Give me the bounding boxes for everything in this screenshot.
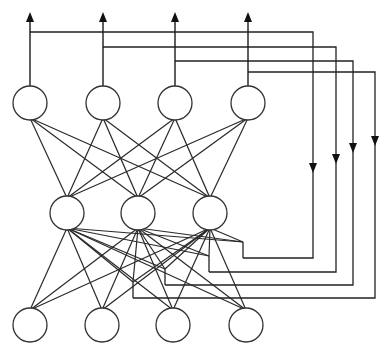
- edge-context-hidden: [209, 228, 210, 256]
- edge-hidden-output: [67, 118, 103, 198]
- output-node: [158, 86, 192, 120]
- output-node: [86, 86, 120, 120]
- input-node: [85, 308, 119, 342]
- arrow-down-icon: [332, 154, 340, 164]
- input-node: [156, 308, 190, 342]
- arrow-down-icon: [309, 163, 317, 173]
- input-node: [13, 308, 47, 342]
- arrow-down-icon: [349, 143, 357, 153]
- input-node: [229, 308, 263, 342]
- edge-input-hidden: [30, 228, 67, 310]
- output-arrows: [26, 12, 252, 86]
- edge-hidden-output: [210, 118, 248, 198]
- hidden-node: [50, 196, 84, 230]
- network-nodes: [13, 86, 265, 342]
- edge-hidden-output: [67, 118, 248, 198]
- edge-input-hidden: [30, 228, 138, 310]
- edge-context-hidden: [133, 228, 138, 282]
- arrow-up-icon: [26, 12, 34, 22]
- arrow-up-icon: [244, 12, 252, 22]
- arrow-down-icon: [371, 136, 379, 146]
- arrow-up-icon: [99, 12, 107, 22]
- recurrent-network-diagram: [0, 0, 385, 349]
- edge-hidden-output: [30, 118, 67, 198]
- hidden-node: [193, 196, 227, 230]
- arrow-up-icon: [171, 12, 179, 22]
- output-node: [231, 86, 265, 120]
- feedback-line: [103, 47, 336, 272]
- output-node: [13, 86, 47, 120]
- hidden-node: [121, 196, 155, 230]
